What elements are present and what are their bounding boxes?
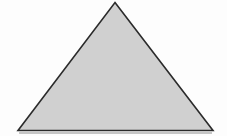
triangle-figure [0, 0, 227, 136]
figure-canvas [0, 0, 227, 136]
